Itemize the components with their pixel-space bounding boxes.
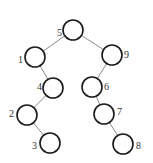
edge-1-4 xyxy=(40,66,48,80)
tree-node-3: 3 xyxy=(32,133,60,153)
tree-node-7: 7 xyxy=(94,104,122,124)
node-label: 3 xyxy=(32,140,37,151)
node-circle xyxy=(82,77,102,97)
node-label: 9 xyxy=(124,49,129,60)
edge-9-6 xyxy=(97,63,106,78)
tree-node-9: 9 xyxy=(102,45,129,65)
node-circle xyxy=(40,133,60,153)
node-label: 1 xyxy=(18,54,23,65)
node-label: 8 xyxy=(136,140,141,151)
tree-node-6: 6 xyxy=(82,77,109,97)
tree-nodes: 519462738 xyxy=(9,20,141,154)
edge-6-7 xyxy=(96,96,100,105)
node-circle xyxy=(43,78,63,98)
edge-2-3 xyxy=(33,123,43,136)
edge-5-1 xyxy=(43,36,65,51)
tree-node-4: 4 xyxy=(37,78,63,98)
edge-5-9 xyxy=(81,35,103,49)
node-circle xyxy=(102,45,122,65)
node-label: 4 xyxy=(37,81,42,92)
edge-7-8 xyxy=(109,122,117,135)
node-label: 6 xyxy=(104,81,109,92)
tree-node-5: 5 xyxy=(57,20,83,40)
node-circle xyxy=(113,134,133,154)
edge-4-2 xyxy=(34,95,46,108)
node-label: 5 xyxy=(57,27,62,38)
node-circle xyxy=(63,20,83,40)
node-circle xyxy=(94,104,114,124)
node-label: 2 xyxy=(9,108,14,119)
tree-node-1: 1 xyxy=(18,47,45,67)
binary-tree-diagram: 519462738 xyxy=(0,0,153,163)
tree-node-2: 2 xyxy=(9,105,37,125)
node-label: 7 xyxy=(117,106,122,117)
node-circle xyxy=(25,47,45,67)
node-circle xyxy=(17,105,37,125)
tree-node-8: 8 xyxy=(113,134,141,154)
